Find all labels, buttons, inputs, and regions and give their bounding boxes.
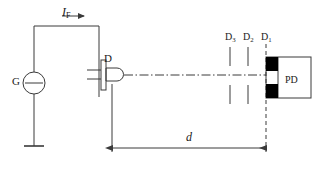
aperture-d3-label: D3: [225, 32, 236, 43]
led-label: D: [104, 53, 112, 64]
led-flange: [101, 60, 106, 90]
schematic-canvas: [0, 0, 316, 172]
aperture-d2-label: D2: [243, 32, 254, 43]
photodetector-mask-lower: [266, 84, 278, 98]
distance-label: d: [186, 131, 192, 143]
photodetector-mask-upper: [266, 57, 278, 71]
forward-current-label: IF: [62, 6, 71, 20]
led-body-dome: [106, 68, 124, 81]
aperture-d1-label: D1: [261, 32, 272, 43]
photodetector-label: PD: [285, 75, 298, 85]
generator-label: G: [12, 76, 20, 87]
schematic-figure: IF G D D3 D2 D1 PD d: [0, 0, 316, 172]
